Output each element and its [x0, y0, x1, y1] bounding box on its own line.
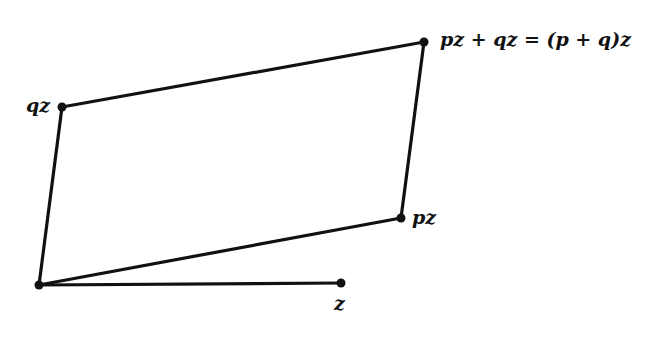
label-pz: pz [412, 208, 436, 227]
edge-pz-to-origin [39, 218, 401, 285]
point-origin [35, 281, 44, 290]
edge-origin-to-qz [39, 107, 62, 285]
point-qz [58, 103, 67, 112]
label-sum: pz + qz = (p + q)z [440, 30, 631, 49]
edge-qz-to-sum [62, 42, 424, 107]
label-z: z [334, 294, 345, 313]
point-z [337, 279, 346, 288]
point-sum [420, 38, 429, 47]
diagram-canvas [0, 0, 667, 338]
label-qz: qz [26, 96, 50, 115]
edge-origin-to-z [39, 283, 341, 285]
edge-sum-to-pz [401, 42, 424, 218]
point-pz [397, 214, 406, 223]
